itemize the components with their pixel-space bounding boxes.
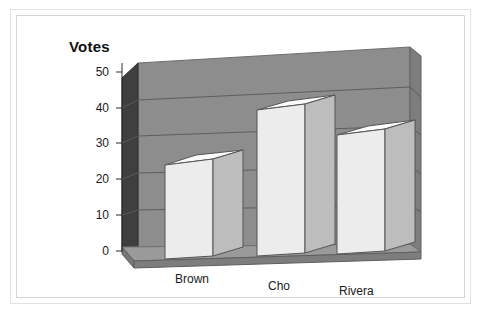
xtick-label-rivera: Rivera [339, 284, 374, 298]
bar-brown-front [165, 159, 213, 259]
y-axis [116, 63, 122, 252]
bar-brown[interactable] [165, 150, 243, 259]
chart-page: Votes 50 40 30 20 10 0 Brown Cho Rivera [0, 0, 483, 316]
xtick-label-brown: Brown [175, 272, 209, 286]
bar-rivera-front [337, 129, 385, 254]
left-wall [122, 63, 138, 252]
ytick-label-30: 30 [75, 136, 109, 150]
bar-chart-3d: Votes 50 40 30 20 10 0 Brown Cho Rivera [17, 16, 464, 297]
chart-title: Votes [69, 38, 110, 55]
bar-rivera-side [385, 120, 415, 251]
bar-cho-front [257, 104, 305, 256]
ytick-label-0: 0 [75, 244, 109, 258]
bar-brown-side [213, 150, 243, 256]
bar-rivera[interactable] [337, 120, 415, 254]
ytick-label-20: 20 [75, 172, 109, 186]
ytick-label-40: 40 [75, 101, 109, 115]
bar-cho-side [305, 95, 335, 253]
ytick-label-10: 10 [75, 208, 109, 222]
ytick-label-50: 50 [75, 65, 109, 79]
bar-cho[interactable] [257, 95, 335, 256]
xtick-label-cho: Cho [268, 279, 290, 293]
